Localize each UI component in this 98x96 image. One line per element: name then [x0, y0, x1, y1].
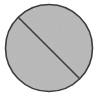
circle-diagonal-graphic — [0, 0, 98, 96]
icon-canvas — [0, 0, 98, 96]
